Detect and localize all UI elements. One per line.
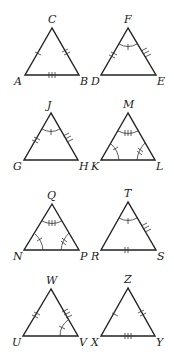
- triangle-ghj: J G H: [13, 99, 89, 173]
- vertex-label-e: E: [156, 75, 165, 88]
- vertex-label-x: X: [90, 336, 100, 349]
- vertex-label-a: A: [13, 75, 22, 88]
- triangle-congruence-figure: C A B F D E J G H: [0, 0, 174, 356]
- vertex-label-z: Z: [123, 273, 132, 286]
- vertex-label-t: T: [124, 187, 133, 200]
- vertex-label-d: D: [90, 75, 100, 88]
- triangle-klm: M K L: [90, 98, 163, 173]
- vertex-label-v: V: [79, 336, 88, 349]
- triangle-def: F D E: [90, 13, 165, 88]
- vertex-label-l: L: [155, 160, 163, 173]
- vertex-label-u: U: [12, 336, 22, 349]
- triangle-rst: T R S: [90, 187, 165, 263]
- triangle-npq: Q N P: [12, 189, 88, 263]
- vertex-label-n: N: [12, 250, 23, 263]
- vertex-label-m: M: [122, 98, 135, 111]
- vertex-label-g: G: [13, 160, 22, 173]
- vertex-label-f: F: [123, 13, 132, 26]
- vertex-label-c: C: [48, 13, 57, 26]
- vertex-label-y: Y: [156, 336, 165, 349]
- vertex-label-r: R: [90, 250, 99, 263]
- triangle-uvw: W U V: [12, 274, 88, 349]
- vertex-label-j: J: [45, 99, 52, 112]
- vertex-label-h: H: [78, 160, 89, 173]
- vertex-label-q: Q: [47, 189, 56, 202]
- triangle-abc: C A B: [13, 13, 88, 88]
- vertex-label-k: K: [90, 160, 100, 173]
- vertex-label-s: S: [157, 250, 165, 263]
- triangle-xyz: Z X Y: [90, 273, 165, 349]
- vertex-label-b: B: [79, 75, 88, 88]
- vertex-label-p: P: [79, 250, 88, 263]
- vertex-label-w: W: [46, 274, 59, 287]
